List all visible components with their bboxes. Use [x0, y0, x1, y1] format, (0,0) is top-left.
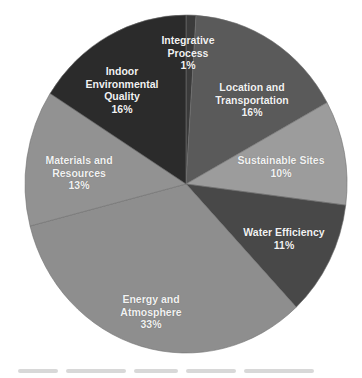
label-location-transportation: Location and Transportation 16% — [215, 81, 289, 119]
label-water-efficiency: Water Efficiency 11% — [243, 226, 324, 251]
label-sustainable-sites: Sustainable Sites 10% — [238, 154, 325, 179]
label-energy-atmosphere: Energy and Atmosphere 33% — [120, 293, 181, 331]
label-indoor-environmental-quality: Indoor Environmental Quality 16% — [86, 65, 159, 115]
caption-blurred — [0, 366, 362, 378]
label-integrative-process: Integrative Process 1% — [161, 34, 214, 72]
label-materials-resources: Materials and Resources 13% — [45, 154, 112, 192]
